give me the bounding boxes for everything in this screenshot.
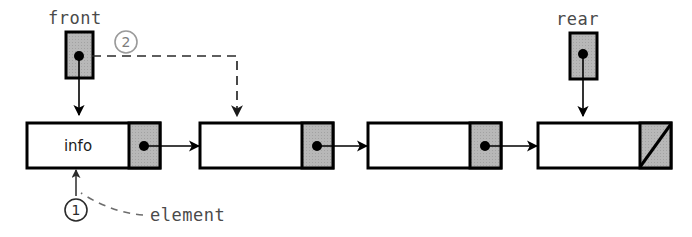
marker-2-group: 2 [115, 31, 137, 53]
marker-1-text: 1 [72, 202, 81, 218]
element-dashed-leader [81, 193, 143, 215]
list-node-3 [368, 123, 537, 168]
list-node-4 [538, 123, 671, 168]
front-label: front [48, 8, 102, 28]
list-node-2 [200, 123, 367, 168]
rear-label: rear [556, 9, 599, 29]
marker-2-text: 2 [122, 34, 131, 50]
front-dashed-path [92, 56, 237, 116]
element-callout-group: 1 element [65, 170, 225, 225]
rear-pointer-group [570, 33, 597, 116]
diagram-canvas: front 2 rear info [0, 0, 692, 237]
linked-list-diagram: front 2 rear info [0, 0, 692, 237]
element-label: element [150, 205, 225, 225]
front-dashed-link [92, 56, 237, 116]
front-pointer-group [66, 32, 93, 115]
node-1-info-text: info [64, 137, 92, 155]
list-node-1: info [27, 123, 199, 168]
